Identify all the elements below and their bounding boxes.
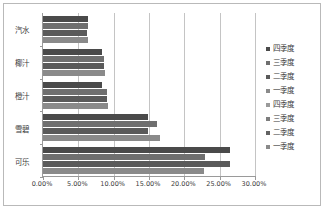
- legend-label: 三季度: [273, 59, 294, 67]
- legend-item[interactable]: 三季度: [266, 56, 322, 70]
- x-axis-tick-label: 30.00%: [234, 180, 274, 188]
- legend-label: 二季度: [273, 129, 294, 137]
- legend-label: 一季度: [273, 87, 294, 95]
- legend-item[interactable]: 四季度: [266, 42, 322, 56]
- legend-swatch-icon: [266, 47, 270, 51]
- legend-label: 二季度: [273, 73, 294, 81]
- category-label: 椰汁: [4, 57, 40, 68]
- x-axis-tick-label: 5.00%: [57, 180, 97, 188]
- legend-label: 四季度: [273, 45, 294, 53]
- value-axis-labels: 0.00%5.00%10.00%15.00%20.00%25.00%30.00%: [4, 180, 326, 192]
- legend-item[interactable]: 一季度: [266, 84, 322, 98]
- chart-frame: 汽水椰汁橙汁雪碧可乐 0.00%5.00%10.00%15.00%20.00%2…: [3, 3, 321, 206]
- legend-swatch-icon: [266, 89, 270, 93]
- x-axis-tick-label: 0.00%: [22, 180, 62, 188]
- legend-swatch-icon: [266, 145, 270, 149]
- category-label: 雪碧: [4, 123, 40, 134]
- x-axis-tick-label: 25.00%: [199, 180, 239, 188]
- legend-label: 四季度: [273, 101, 294, 109]
- legend-swatch-icon: [266, 117, 270, 121]
- legend-label: 一季度: [273, 143, 294, 151]
- legend-item[interactable]: 二季度: [266, 126, 322, 140]
- legend-item[interactable]: 三季度: [266, 112, 322, 126]
- x-axis-tick-label: 10.00%: [93, 180, 133, 188]
- legend-swatch-icon: [266, 103, 270, 107]
- legend-label: 三季度: [273, 115, 294, 123]
- chart-legend: 四季度三季度二季度一季度四季度三季度二季度一季度: [266, 42, 322, 154]
- category-label: 橙汁: [4, 90, 40, 101]
- legend-item[interactable]: 四季度: [266, 98, 322, 112]
- x-axis-tick-label: 20.00%: [163, 180, 203, 188]
- category-label: 可乐: [4, 156, 40, 167]
- x-axis-tick-label: 15.00%: [128, 180, 168, 188]
- legend-item[interactable]: 一季度: [266, 140, 322, 154]
- legend-swatch-icon: [266, 61, 270, 65]
- legend-swatch-icon: [266, 131, 270, 135]
- legend-swatch-icon: [266, 75, 270, 79]
- legend-item[interactable]: 二季度: [266, 70, 322, 84]
- category-label: 汽水: [4, 24, 40, 35]
